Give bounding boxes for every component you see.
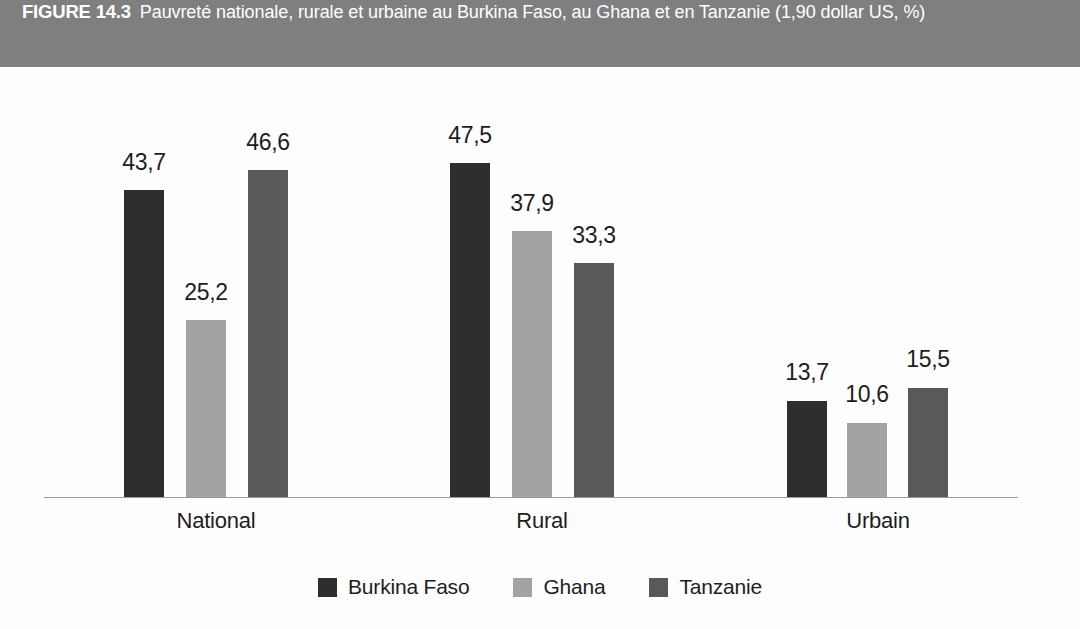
bar-urbain-burkina-faso[interactable] — [787, 401, 827, 497]
bar-rural-ghana[interactable] — [512, 231, 552, 497]
bar-value-label: 47,5 — [430, 122, 510, 149]
bar-value-label: 10,6 — [827, 381, 907, 408]
legend-label: Tanzanie — [679, 575, 761, 599]
figure-header-text: FIGURE 14.3Pauvreté nationale, rurale et… — [22, 3, 925, 22]
bar-national-tanzanie[interactable] — [248, 170, 288, 497]
legend-label: Burkina Faso — [348, 575, 469, 599]
bar-value-label: 33,3 — [554, 222, 634, 249]
x-axis-baseline — [44, 497, 1018, 498]
legend-swatch-icon — [513, 578, 532, 597]
legend-label: Ghana — [543, 575, 605, 599]
chart-legend: Burkina Faso Ghana Tanzanie — [0, 575, 1080, 599]
bar-value-label: 37,9 — [492, 190, 572, 217]
bar-rural-tanzanie[interactable] — [574, 263, 614, 497]
legend-swatch-icon — [649, 578, 668, 597]
bar-value-label: 15,5 — [888, 346, 968, 373]
figure-header-band: FIGURE 14.3Pauvreté nationale, rurale et… — [0, 0, 1080, 67]
category-label-urbain: Urbain — [758, 508, 998, 534]
legend-item-tanzanie[interactable]: Tanzanie — [649, 575, 761, 599]
bar-national-burkina-faso[interactable] — [124, 190, 164, 497]
bar-value-label: 25,2 — [166, 279, 246, 306]
figure-container: FIGURE 14.3Pauvreté nationale, rurale et… — [0, 0, 1080, 629]
category-label-rural: Rural — [422, 508, 662, 534]
bar-urbain-tanzanie[interactable] — [908, 388, 948, 497]
bar-value-label: 46,6 — [228, 129, 308, 156]
bar-national-ghana[interactable] — [186, 320, 226, 497]
legend-item-ghana[interactable]: Ghana — [513, 575, 605, 599]
chart-plot-area: 43,7 25,2 46,6 National 47,5 37,9 33,3 R… — [0, 67, 1080, 629]
bar-urbain-ghana[interactable] — [847, 423, 887, 497]
bar-value-label: 43,7 — [104, 149, 184, 176]
category-label-national: National — [96, 508, 336, 534]
legend-item-burkina-faso[interactable]: Burkina Faso — [318, 575, 469, 599]
figure-title: Pauvreté nationale, rurale et urbaine au… — [140, 2, 925, 22]
figure-number-label: FIGURE 14.3 — [22, 1, 131, 22]
bar-rural-burkina-faso[interactable] — [450, 163, 490, 497]
legend-swatch-icon — [318, 578, 337, 597]
